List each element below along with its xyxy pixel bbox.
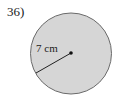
center-point — [69, 51, 73, 55]
circle-figure: 7 cm — [0, 0, 115, 95]
radius-label: 7 cm — [36, 42, 58, 54]
